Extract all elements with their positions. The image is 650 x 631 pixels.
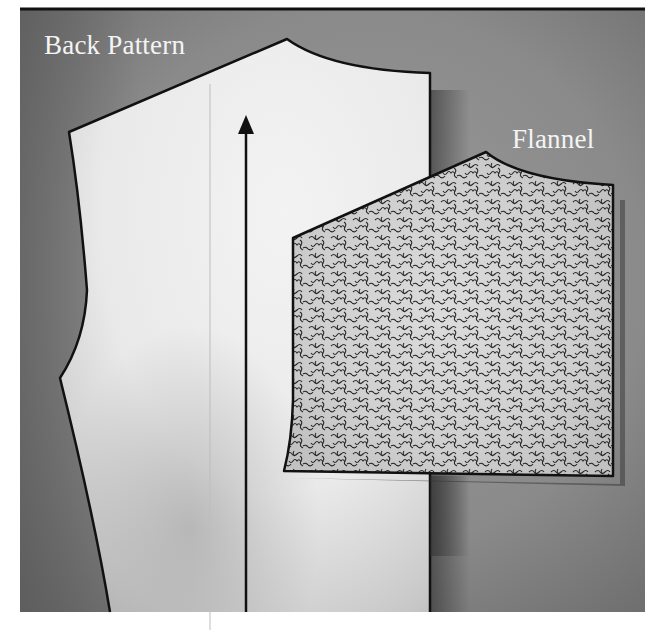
flannel-label: Flannel: [512, 124, 594, 155]
back-pattern-label: Back Pattern: [44, 30, 185, 61]
pattern-illustration: Back Pattern Flannel: [0, 0, 650, 631]
flannel-drop-shadow: [430, 476, 470, 556]
illustration-canvas: [0, 0, 650, 631]
